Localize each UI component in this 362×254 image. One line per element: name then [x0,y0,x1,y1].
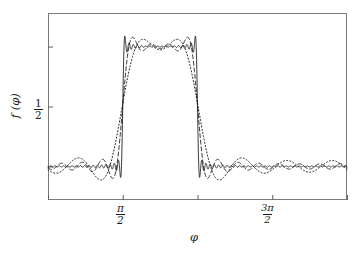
fraction-numerator: 3π [260,203,275,213]
x-tick-label-pi-over-2: π 2 [116,203,125,226]
fraction-denominator: 2 [34,109,43,121]
x-tick-label-3pi-over-2: 3π 2 [260,203,275,225]
curve-high-order-solid [48,36,347,177]
y-axis-title: f (φ) [10,86,22,126]
fraction-denominator: 2 [263,214,271,225]
figure-container: π 2 3π 2 1 2 φ f (φ) Gibbs phenomenon [0,0,362,254]
fourier-gibbs-chart [0,0,362,254]
x-axis-title: φ [190,232,198,244]
fraction-numerator: π [116,203,125,214]
fraction-denominator: 2 [116,214,125,226]
y-tick-label-one-half: 1 2 [34,98,43,121]
fraction-pi-over-2: π 2 [116,203,125,226]
fraction-numerator: 1 [34,98,43,109]
fraction-one-half: 1 2 [34,98,43,121]
fraction-3pi-over-2: 3π 2 [260,203,275,225]
